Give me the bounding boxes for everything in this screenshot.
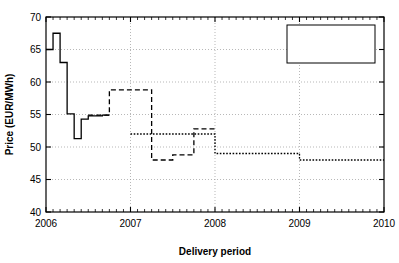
xtick-label: 2009 [288, 218, 311, 229]
legend-box [287, 25, 375, 63]
ytick-label: 65 [30, 44, 42, 55]
xtick-label: 2007 [119, 218, 142, 229]
ytick-label: 70 [30, 12, 42, 23]
y-axis-label: Price (EUR/MWh) [4, 74, 15, 156]
chart-canvas: 4045505560657020062007200820092010Delive… [0, 0, 399, 263]
x-axis-label: Delivery period [179, 246, 251, 257]
ytick-label: 60 [30, 77, 42, 88]
ytick-label: 55 [30, 109, 42, 120]
ytick-label: 45 [30, 174, 42, 185]
ytick-label: 40 [30, 207, 42, 218]
xtick-label: 2008 [204, 218, 227, 229]
xtick-label: 2006 [35, 218, 58, 229]
figure-container: 4045505560657020062007200820092010Delive… [0, 0, 399, 263]
xtick-label: 2010 [373, 218, 396, 229]
ytick-label: 50 [30, 142, 42, 153]
